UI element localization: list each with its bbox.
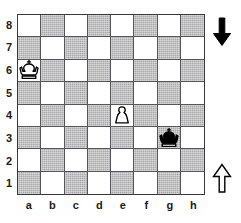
- chess-board-grid: [17, 14, 205, 195]
- black-king-icon[interactable]: [158, 127, 180, 149]
- board-square-f3[interactable]: [134, 127, 157, 149]
- board-square-h6[interactable]: [181, 60, 204, 82]
- board-square-a4[interactable]: [18, 105, 41, 127]
- board-square-b3[interactable]: [41, 127, 64, 149]
- board-square-a1[interactable]: [18, 172, 41, 194]
- rank-label-2: 2: [0, 150, 15, 173]
- board-square-f8[interactable]: [134, 15, 157, 37]
- board-square-c4[interactable]: [65, 105, 88, 127]
- board-square-h2[interactable]: [181, 149, 204, 171]
- board-square-b7[interactable]: [41, 37, 64, 59]
- board-square-h8[interactable]: [181, 15, 204, 37]
- board-square-c1[interactable]: [65, 172, 88, 194]
- board-square-c5[interactable]: [65, 82, 88, 104]
- board-square-b8[interactable]: [41, 15, 64, 37]
- board-square-f5[interactable]: [134, 82, 157, 104]
- file-label-g: g: [158, 196, 182, 214]
- file-label-d: d: [88, 196, 112, 214]
- board-square-b5[interactable]: [41, 82, 64, 104]
- board-square-d1[interactable]: [88, 172, 111, 194]
- board-square-c6[interactable]: [65, 60, 88, 82]
- board-square-e6[interactable]: [111, 60, 134, 82]
- board-square-a3[interactable]: [18, 127, 41, 149]
- board-square-e2[interactable]: [111, 149, 134, 171]
- black-to-move-arrow-down: [211, 17, 233, 47]
- board-square-d4[interactable]: [88, 105, 111, 127]
- board-square-a8[interactable]: [18, 15, 41, 37]
- board-square-d6[interactable]: [88, 60, 111, 82]
- board-square-d5[interactable]: [88, 82, 111, 104]
- board-square-c2[interactable]: [65, 149, 88, 171]
- board-square-e1[interactable]: [111, 172, 134, 194]
- board-square-b4[interactable]: [41, 105, 64, 127]
- board-square-c3[interactable]: [65, 127, 88, 149]
- board-square-e3[interactable]: [111, 127, 134, 149]
- board-square-c8[interactable]: [65, 15, 88, 37]
- board-square-g7[interactable]: [158, 37, 181, 59]
- file-label-f: f: [135, 196, 159, 214]
- board-square-d3[interactable]: [88, 127, 111, 149]
- board-square-g4[interactable]: [158, 105, 181, 127]
- board-square-b2[interactable]: [41, 149, 64, 171]
- board-square-a7[interactable]: [18, 37, 41, 59]
- board-square-a2[interactable]: [18, 149, 41, 171]
- board-square-g5[interactable]: [158, 82, 181, 104]
- board-square-e5[interactable]: [111, 82, 134, 104]
- white-pawn-icon[interactable]: [111, 104, 133, 126]
- board-square-e8[interactable]: [111, 15, 134, 37]
- board-square-g1[interactable]: [158, 172, 181, 194]
- board-square-e7[interactable]: [111, 37, 134, 59]
- white-king-icon[interactable]: [18, 59, 40, 81]
- chess-board: [17, 14, 205, 195]
- rank-label-1: 1: [0, 172, 15, 195]
- rank-label-7: 7: [0, 37, 15, 60]
- rank-label-8: 8: [0, 14, 15, 37]
- board-square-h5[interactable]: [181, 82, 204, 104]
- board-square-f2[interactable]: [134, 149, 157, 171]
- white-to-move-arrow-up: [211, 163, 233, 193]
- board-square-b6[interactable]: [41, 60, 64, 82]
- board-square-a5[interactable]: [18, 82, 41, 104]
- file-label-c: c: [64, 196, 88, 214]
- board-square-h7[interactable]: [181, 37, 204, 59]
- board-square-e4[interactable]: [111, 105, 134, 127]
- file-label-a: a: [17, 196, 41, 214]
- file-label-b: b: [41, 196, 65, 214]
- rank-label-5: 5: [0, 82, 15, 105]
- chess-diagram: 8 7 6 5 4 3 2 1 a b c d e: [0, 0, 241, 223]
- board-square-h1[interactable]: [181, 172, 204, 194]
- board-square-f1[interactable]: [134, 172, 157, 194]
- board-square-g2[interactable]: [158, 149, 181, 171]
- board-square-g3[interactable]: [158, 127, 181, 149]
- file-labels: a b c d e f g h: [17, 196, 205, 214]
- board-square-d2[interactable]: [88, 149, 111, 171]
- rank-label-4: 4: [0, 105, 15, 128]
- file-label-h: h: [182, 196, 206, 214]
- board-square-g6[interactable]: [158, 60, 181, 82]
- board-square-f4[interactable]: [134, 105, 157, 127]
- board-square-f6[interactable]: [134, 60, 157, 82]
- board-square-b1[interactable]: [41, 172, 64, 194]
- rank-labels: 8 7 6 5 4 3 2 1: [0, 14, 15, 195]
- rank-label-3: 3: [0, 127, 15, 150]
- board-square-h3[interactable]: [181, 127, 204, 149]
- board-square-g8[interactable]: [158, 15, 181, 37]
- rank-label-6: 6: [0, 59, 15, 82]
- board-square-f7[interactable]: [134, 37, 157, 59]
- board-square-d7[interactable]: [88, 37, 111, 59]
- board-square-c7[interactable]: [65, 37, 88, 59]
- file-label-e: e: [111, 196, 135, 214]
- board-square-a6[interactable]: [18, 60, 41, 82]
- board-square-h4[interactable]: [181, 105, 204, 127]
- board-square-d8[interactable]: [88, 15, 111, 37]
